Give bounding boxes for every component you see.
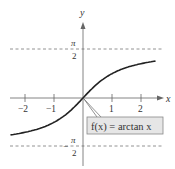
- arctan-graph: x y −2 −1 1 2 π 2 − π 2 f(x) = arctan x: [0, 0, 175, 169]
- x-tick-neg1: −1: [46, 104, 56, 114]
- svg-text:2: 2: [72, 51, 77, 61]
- y-label-neg-pi-over-2: − π 2: [63, 135, 77, 158]
- svg-text:π: π: [71, 135, 76, 145]
- y-axis-arrow-icon: [81, 22, 86, 29]
- y-axis-label: y: [79, 7, 85, 18]
- svg-text:π: π: [71, 38, 76, 48]
- x-tick-1: 1: [109, 104, 114, 114]
- y-label-pi-over-2: π 2: [71, 38, 77, 61]
- callout-pointer-2: [84, 99, 101, 117]
- x-axis-label: x: [165, 93, 171, 104]
- callout-pointer: [84, 99, 97, 117]
- x-tick-2: 2: [138, 104, 143, 114]
- x-axis-arrow-icon: [157, 96, 164, 101]
- x-tick-neg2: −2: [18, 104, 28, 114]
- svg-text:−: −: [63, 141, 68, 151]
- callout-text: f(x) = arctan x: [91, 121, 152, 133]
- svg-text:2: 2: [72, 148, 77, 158]
